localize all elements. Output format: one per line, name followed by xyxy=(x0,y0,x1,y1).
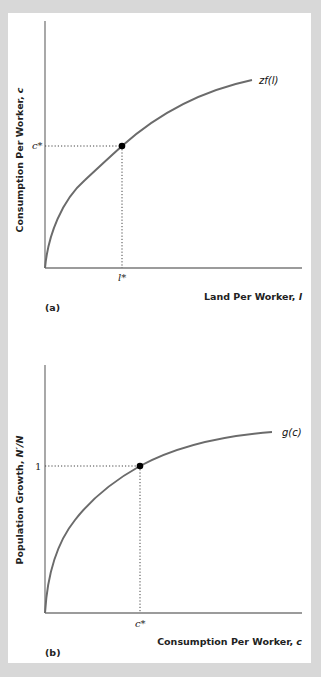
y-axis-label-a: Consumption Per Worker, c xyxy=(14,87,25,232)
x-axis-label-b: Consumption Per Worker, c xyxy=(157,636,302,647)
equilibrium-point-a xyxy=(119,143,126,150)
chart-b: 1 c* g(c) Consumption Per Worker, c Popu… xyxy=(14,365,302,658)
y-axis-label-b: Population Growth, N′/N xyxy=(14,435,25,564)
chart-a: c* l* zf(l) Land Per Worker, l Consumpti… xyxy=(14,21,303,313)
panel-tag-b: (b) xyxy=(45,647,60,658)
panel-tag-a: (a) xyxy=(45,302,60,313)
curve-label-g: g(c) xyxy=(282,427,302,438)
curve-zf xyxy=(45,80,252,268)
x-tick-l-star: l* xyxy=(118,272,126,283)
y-tick-c-star-a: c* xyxy=(32,140,43,151)
x-tick-c-star-b: c* xyxy=(135,618,146,629)
y-tick-one: 1 xyxy=(35,461,41,472)
curve-g xyxy=(45,432,272,613)
equilibrium-point-b xyxy=(137,463,144,470)
figure-svg: c* l* zf(l) Land Per Worker, l Consumpti… xyxy=(0,0,321,677)
curve-label-zf: zf(l) xyxy=(258,75,278,86)
x-axis-label-a: Land Per Worker, l xyxy=(204,291,303,302)
